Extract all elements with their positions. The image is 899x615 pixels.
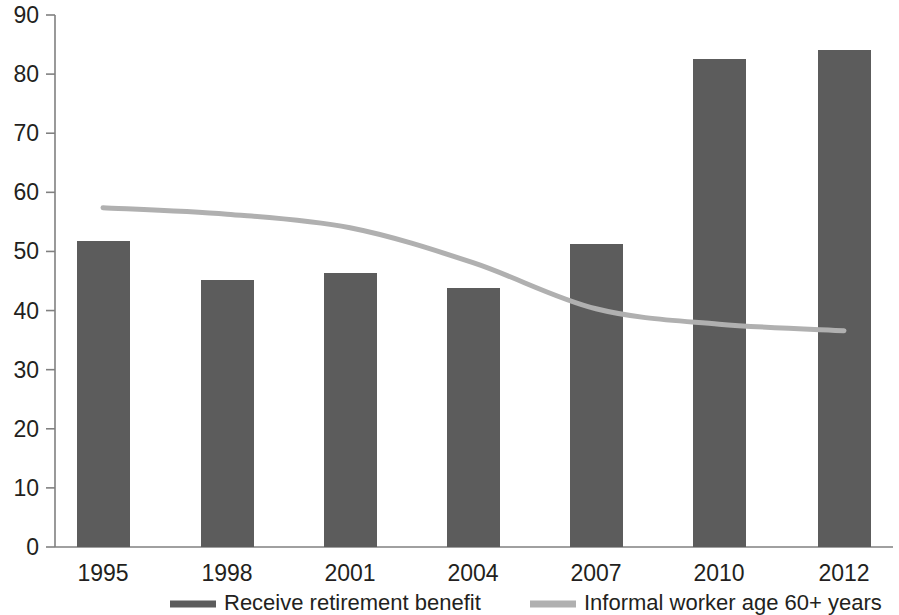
- y-tick-label: 60: [13, 179, 39, 205]
- x-tick-label-2010: 2010: [693, 560, 744, 586]
- y-axis: 0102030405060708090: [13, 2, 55, 560]
- y-tick-label: 50: [13, 238, 39, 264]
- bar-series-receive-retirement-benefit: [77, 50, 871, 547]
- bar-2001: [324, 273, 377, 547]
- y-tick-label: 70: [13, 120, 39, 146]
- bar-2004: [447, 288, 500, 547]
- x-tick-label-1998: 1998: [201, 560, 252, 586]
- x-tick-label-2012: 2012: [818, 560, 869, 586]
- y-tick-label: 0: [26, 534, 39, 560]
- bar-2010: [693, 59, 746, 547]
- x-tick-label-2007: 2007: [570, 560, 621, 586]
- bar-2012: [818, 50, 871, 547]
- combo-bar-line-chart: 0102030405060708090 19951998200120042007…: [0, 0, 899, 615]
- y-tick-label: 10: [13, 475, 39, 501]
- y-tick-label: 20: [13, 416, 39, 442]
- bar-1998: [201, 280, 254, 547]
- bar-2007: [570, 244, 623, 547]
- x-tick-label-2001: 2001: [324, 560, 375, 586]
- y-tick-label: 80: [13, 61, 39, 87]
- y-tick-label: 30: [13, 357, 39, 383]
- y-tick-label: 90: [13, 2, 39, 28]
- x-tick-labels: 1995199820012004200720102012: [77, 560, 869, 586]
- y-tick-label: 40: [13, 298, 39, 324]
- chart-legend: Receive retirement benefitInformal worke…: [170, 590, 882, 615]
- x-tick-label-1995: 1995: [77, 560, 128, 586]
- bar-1995: [77, 241, 130, 547]
- x-tick-label-2004: 2004: [447, 560, 498, 586]
- chart-container: 0102030405060708090 19951998200120042007…: [0, 0, 899, 615]
- legend-label-2: Informal worker age 60+ years: [584, 590, 882, 615]
- legend-label-1: Receive retirement benefit: [224, 590, 481, 615]
